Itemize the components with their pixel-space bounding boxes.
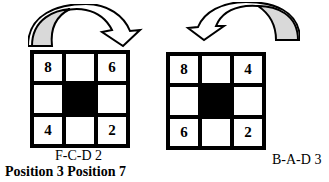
grid-cell: 4 (234, 56, 262, 83)
curved-arrow-right-icon (28, 4, 146, 48)
grid-cell-center-dark (202, 87, 230, 114)
grid-cell: 6 (98, 54, 126, 81)
grid-cell: 4 (34, 117, 62, 144)
left-grid-label: F-C-D 2 (55, 148, 102, 164)
curved-arrow-left-icon (184, 2, 300, 44)
left-number-grid: 8 6 4 2 (30, 50, 130, 148)
grid-cell (202, 56, 230, 83)
grid-cell (202, 119, 230, 146)
grid-cell: 2 (98, 117, 126, 144)
grid-cell (66, 117, 94, 144)
grid-cell (66, 54, 94, 81)
right-number-grid: 8 4 6 2 (166, 52, 266, 150)
grid-cell: 6 (170, 119, 198, 146)
grid-cell (170, 87, 198, 114)
grid-cell: 2 (234, 119, 262, 146)
grid-cell (98, 85, 126, 112)
grid-cell-center-dark (66, 85, 94, 112)
grid-cell: 8 (34, 54, 62, 81)
position-caption: Position 3 Position 7 (5, 164, 126, 180)
grid-cell (234, 87, 262, 114)
grid-cell (34, 85, 62, 112)
right-grid-label: B-A-D 3 (272, 152, 321, 168)
grid-cell: 8 (170, 56, 198, 83)
